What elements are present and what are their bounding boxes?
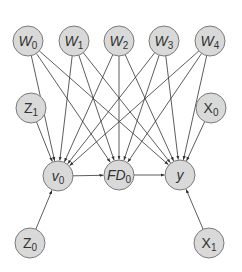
node-w2: W2 (104, 26, 134, 56)
edge-z1-to-v0 (37, 122, 53, 162)
edge-w0-to-fd0 (36, 53, 110, 162)
node-y: y (165, 160, 195, 190)
edge-x1-to-y (186, 189, 203, 229)
node-z0: Z0 (15, 228, 45, 258)
edge-w2-to-v0 (64, 55, 112, 162)
node-w3: W3 (149, 26, 179, 56)
edge-w2-to-y (125, 55, 173, 161)
node-fd0: FD0 (104, 160, 134, 190)
node-w4: W4 (195, 26, 225, 56)
edges-layer (31, 51, 206, 229)
edge-w3-to-fd0 (124, 55, 159, 160)
edge-w4-to-fd0 (128, 53, 202, 162)
causal-graph: W0W1W2W3W4Z1X0v0FD0yZ0X1 (0, 0, 242, 272)
nodes-layer: W0W1W2W3W4Z1X0v0FD0yZ0X1 (13, 26, 226, 258)
edge-x0-to-y (187, 122, 205, 161)
edge-z0-to-v0 (36, 190, 52, 229)
node-w1: W1 (59, 26, 89, 56)
edge-v0-to-fd0 (73, 175, 104, 176)
node-v0: v0 (43, 161, 73, 191)
edge-w1-to-v0 (60, 56, 72, 161)
node-z1: Z1 (16, 93, 46, 123)
edge-w1-to-fd0 (79, 55, 114, 160)
node-w0: W0 (13, 26, 43, 56)
node-x0: X0 (196, 93, 226, 123)
node-label: y (176, 167, 185, 183)
node-x1: X1 (194, 228, 224, 258)
